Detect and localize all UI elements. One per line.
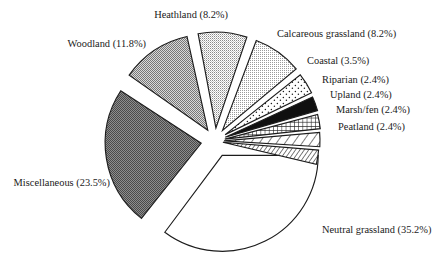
pie-label-coastal: Coastal (3.5%): [307, 55, 369, 67]
pie-label-upland: Upland (2.4%): [330, 89, 392, 101]
pie-label-neutral-grassland: Neutral grassland (35.2%): [322, 224, 431, 236]
pie-chart-figure: Neutral grassland (35.2%)Miscellaneous (…: [0, 0, 433, 259]
pie-label-miscellaneous: Miscellaneous (23.5%): [14, 177, 110, 189]
pie-label-heathland: Heathland (8.2%): [154, 9, 228, 21]
pie-label-woodland: Woodland (11.8%): [68, 38, 146, 50]
pie-slice-group: [105, 32, 320, 251]
pie-label-riparian: Riparian (2.4%): [322, 74, 389, 86]
pie-label-marsh-fen: Marsh/fen (2.4%): [336, 104, 410, 116]
pie-label-calcareous-grassland: Calcareous grassland (8.2%): [277, 28, 396, 40]
pie-slice-neutral-grassland[interactable]: [165, 155, 318, 251]
pie-label-peatland: Peatland (2.4%): [338, 121, 405, 133]
pie-chart-svg: Neutral grassland (35.2%)Miscellaneous (…: [0, 0, 433, 259]
